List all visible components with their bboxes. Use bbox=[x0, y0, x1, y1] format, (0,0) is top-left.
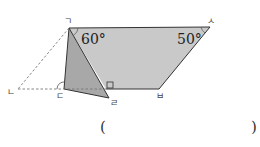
answer-open-paren: ( bbox=[100, 118, 106, 136]
label-g: ㄱ bbox=[64, 16, 72, 26]
label-s: ㅅ bbox=[207, 16, 215, 26]
label-r: ㄹ bbox=[110, 98, 118, 108]
angle-label-50: 50° bbox=[177, 31, 202, 47]
angle-label-60: 60° bbox=[81, 31, 106, 47]
label-d: ㄷ bbox=[56, 91, 64, 101]
folded-trapezoid-diagram: ㄱ ㄴ ㄷ ㄹ ㅂ ㅅ 60° 50° bbox=[0, 0, 260, 147]
dashed-edge-g-n bbox=[18, 28, 69, 89]
answer-close-paren: ) bbox=[251, 118, 257, 136]
label-b: ㅂ bbox=[156, 91, 164, 101]
label-n: ㄴ bbox=[7, 87, 15, 97]
